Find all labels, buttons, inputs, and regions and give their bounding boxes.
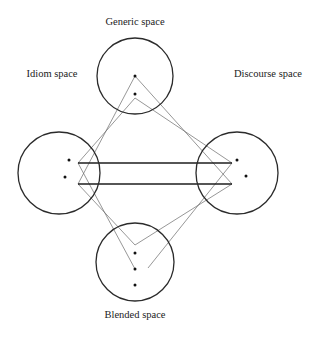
generic-element-dot — [134, 75, 137, 78]
idiom-space-circle — [18, 132, 100, 214]
blended-element-dot — [134, 284, 137, 287]
projection-line — [135, 98, 232, 163]
discourse-space-circle — [196, 132, 278, 214]
projection-line — [148, 163, 232, 268]
discourse-element-dot — [236, 159, 239, 162]
blending-diagram: Generic space Idiom space Discourse spac… — [0, 0, 316, 338]
blended-space-label: Blended space — [105, 309, 166, 320]
idiom-space-label: Idiom space — [26, 68, 77, 79]
generic-element-dot — [134, 93, 137, 96]
idiom-element-dot — [68, 159, 71, 162]
projection-line — [135, 76, 232, 184]
blended-element-dot — [134, 252, 137, 255]
element-dots — [64, 75, 248, 287]
blended-space-circle — [96, 223, 174, 301]
projection-line — [78, 163, 135, 269]
generic-space-label: Generic space — [105, 16, 165, 27]
projection-line — [135, 184, 232, 245]
projection-line — [78, 98, 135, 163]
blended-element-dot — [134, 268, 137, 271]
discourse-space-label: Discourse space — [234, 68, 302, 79]
discourse-element-dot — [245, 175, 248, 178]
cross-space-links — [78, 163, 232, 184]
idiom-element-dot — [64, 176, 67, 179]
projection-lines — [78, 76, 232, 269]
